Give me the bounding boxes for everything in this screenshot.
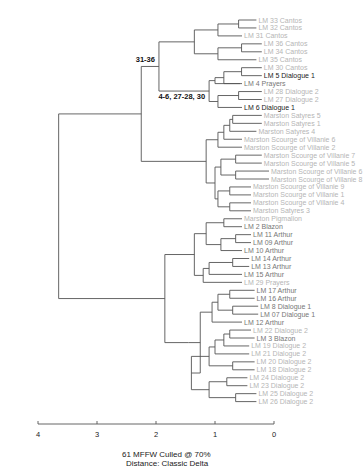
leaf-label: LM 14 Arthur: [251, 255, 292, 262]
leaf-label: Marston Scourge of Villanie 6: [244, 136, 335, 144]
leaf-label: LM 31 Cantos: [244, 32, 288, 39]
leaf-label: LM 16 Arthur: [257, 295, 298, 302]
leaf-label: LM 28 Dialogue 2: [264, 88, 319, 96]
leaf-label: LM 17 Arthur: [257, 287, 298, 294]
leaf-label: Marston Satyres 5: [264, 112, 321, 120]
leaf-label: Marston Scourge of Villanie 8: [271, 176, 362, 184]
leaf-label: LM 32 Cantos: [258, 24, 302, 31]
leaf-label: LM 20 Dialogue 2: [257, 358, 312, 366]
cluster-annotations: 4-6, 27-28, 3031-36: [136, 55, 205, 101]
leaf-label: LM 4 Prayers: [244, 80, 286, 88]
leaf-label: LM 18 Dialogue 2: [257, 366, 312, 374]
leaf-label: LM 6 Dialogue 1: [244, 104, 295, 112]
cluster-annotation: 31-36: [136, 55, 155, 64]
leaf-label: Marston Scourge of Villanie 7: [264, 152, 355, 160]
axis-tick-label: 0: [272, 430, 276, 439]
leaf-label: LM 35 Cantos: [258, 56, 302, 63]
leaf-label: LM 24 Dialogue 2: [249, 374, 304, 382]
leaf-label: LM 15 Arthur: [244, 271, 285, 278]
leaf-label: LM 30 Cantos: [264, 64, 308, 71]
leaf-label: LM 10 Arthur: [244, 247, 285, 254]
leaf-label: Marston Scourge of Villanie 1: [253, 191, 344, 199]
leaf-label: LM 21 Dialogue 2: [251, 350, 306, 358]
leaf-label: LM 13 Arthur: [251, 263, 292, 270]
distance-axis: 43210: [36, 421, 276, 439]
leaf-label: Marston Scourge of Villanie 6: [271, 168, 362, 176]
leaf-label: LM 09 Arthur: [253, 239, 294, 246]
axis-tick-label: 3: [95, 430, 99, 439]
leaf-label: LM 22 Dialogue 2: [253, 327, 308, 335]
leaf-label: LM 8 Dialogue 1: [260, 303, 311, 311]
leaf-label: LM 25 Dialogue 2: [258, 390, 313, 398]
leaf-label: LM 19 Dialogue 2: [251, 342, 306, 350]
leaf-label: LM 23 Dialogue 2: [249, 382, 304, 390]
dendrogram: LM 33 CantosLM 32 CantosLM 31 CantosLM 3…: [0, 0, 363, 470]
leaf-label: Marston Pigmalion: [244, 215, 302, 223]
dendrogram-branches: [59, 20, 269, 402]
leaf-label: Marston Satyres 4: [258, 128, 315, 136]
leaf-label: Marston Scourge of Villanie 2: [244, 144, 335, 152]
leaf-label: LM 5 Dialogue 1: [264, 72, 315, 80]
cluster-annotation: 4-6, 27-28, 30: [158, 92, 205, 101]
leaf-label: LM 36 Cantos: [264, 40, 308, 47]
leaf-label: LM 07 Dialogue 1: [260, 311, 315, 319]
leaf-label: LM 33 Cantos: [258, 17, 302, 24]
leaf-labels: LM 33 CantosLM 32 CantosLM 31 CantosLM 3…: [244, 17, 362, 407]
leaf-label: LM 27 Dialogue 2: [264, 96, 319, 104]
leaf-label: Marston Scourge of Villanie 5: [264, 160, 355, 168]
leaf-label: LM 12 Arthur: [244, 319, 285, 326]
leaf-label: LM 26 Dialogue 2: [258, 398, 313, 406]
axis-tick-label: 2: [154, 430, 158, 439]
leaf-label: LM 3 Blazon: [257, 335, 296, 342]
leaf-label: LM 29 Prayers: [244, 279, 290, 287]
leaf-label: LM 11 Arthur: [253, 231, 293, 238]
axis-tick-label: 1: [213, 430, 217, 439]
leaf-label: Marston Satyres 1: [264, 120, 321, 128]
caption-features: 61 MFFW Culled @ 70%: [122, 450, 363, 459]
caption-distance: Distance: Classic Delta: [126, 459, 363, 468]
axis-tick-label: 4: [36, 430, 40, 439]
leaf-label: LM 2 Blazon: [244, 223, 283, 230]
leaf-label: Marston Scourge of Villanie 4: [253, 199, 344, 207]
leaf-label: LM 34 Cantos: [264, 48, 308, 55]
leaf-label: Marston Satyres 3: [253, 207, 310, 215]
leaf-label: Marston Scourge of Villanie 9: [253, 183, 344, 191]
